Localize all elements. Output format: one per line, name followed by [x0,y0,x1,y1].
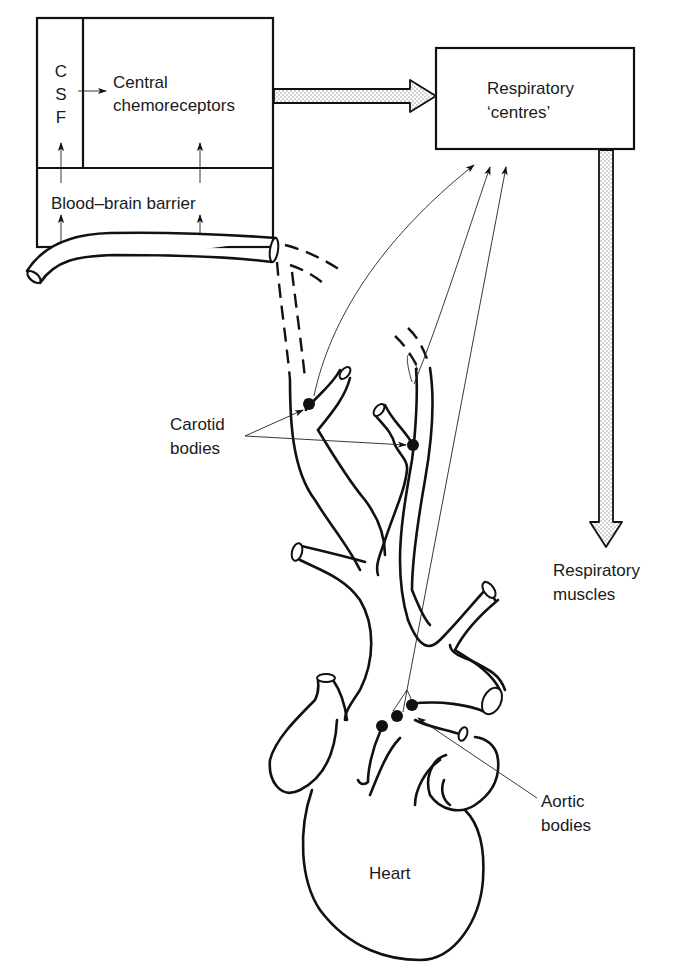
respiratory-muscles-label: Respiratory muscles [553,561,640,604]
respiratory-centres-box [436,48,634,149]
central-chemoreceptors-label: Central chemoreceptors [113,73,235,115]
carotid-nerve-left [314,165,474,396]
carotid-bodies-label: Carotid bodies [170,415,225,458]
svg-text:‘centres’: ‘centres’ [487,103,550,122]
svg-text:C: C [55,62,67,81]
svg-text:bodies: bodies [541,816,591,835]
cerebral-blood-vessel [25,233,279,285]
carotid-body-left [303,398,315,410]
aortic-body-1 [406,699,418,711]
svg-text:Central: Central [113,73,168,92]
svg-text:Respiratory: Respiratory [553,561,640,580]
heart-label: Heart [369,864,411,883]
respiratory-centres-label: Respiratory ‘centres’ [487,79,574,122]
svg-text:chemoreceptors: chemoreceptors [113,96,235,115]
carotid-body-right [407,439,419,451]
aortic-body-3 [376,720,388,732]
svg-text:muscles: muscles [553,585,615,604]
svg-text:bodies: bodies [170,439,220,458]
svg-text:S: S [55,85,66,104]
carotid-pointer-left [245,410,303,436]
aortic-pointer [418,718,537,798]
chemoreceptors-to-centres-arrow [274,80,436,112]
svg-text:Respiratory: Respiratory [487,79,574,98]
svg-text:F: F [56,108,66,127]
aortic-arch-and-great-vessels [290,542,506,720]
heart-outline [270,674,498,960]
svg-text:Aortic: Aortic [541,792,585,811]
svg-text:Carotid: Carotid [170,415,225,434]
centres-to-muscles-arrow [590,150,622,547]
blood-brain-barrier-label: Blood–brain barrier [51,194,196,213]
aortic-bodies-label: Aortic bodies [541,792,591,835]
aortic-body-2 [391,710,403,722]
carotid-nerve-right [414,167,490,384]
respiratory-control-diagram: C S F Central chemoreceptors Blood–brain… [0,0,683,975]
dashed-vessel-continuations [277,245,428,380]
csf-label: C S F [55,62,67,127]
